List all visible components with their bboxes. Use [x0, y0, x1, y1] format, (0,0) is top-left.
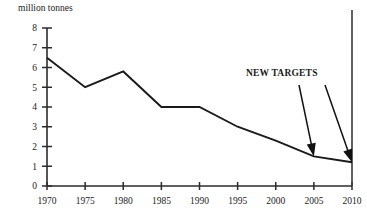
x-tick-label: 1985 — [152, 196, 171, 206]
x-tick-label: 1990 — [190, 196, 209, 206]
new-targets-label: NEW TARGETS — [246, 68, 318, 78]
annotation-arrow-shaft — [299, 85, 312, 146]
y-tick-label: 7 — [32, 43, 37, 53]
y-tick-label: 4 — [32, 102, 37, 112]
annotation-arrow-group — [299, 85, 352, 162]
x-tick-label: 2000 — [266, 196, 285, 206]
y-tick-label: 3 — [32, 122, 37, 132]
x-tick-label: 1975 — [76, 196, 95, 206]
y-tick-label: 5 — [32, 83, 37, 93]
y-tick-label: 6 — [32, 63, 37, 73]
y-tick-label: 1 — [32, 162, 37, 172]
y-tick-label: 2 — [32, 142, 37, 152]
x-tick-label: 2005 — [304, 196, 323, 206]
line-chart: million tonnes 012345678 197019751980198… — [0, 0, 367, 212]
annotation-arrow-shaft — [325, 85, 348, 152]
x-tick-label: 1970 — [38, 196, 57, 206]
y-tick-label: 0 — [32, 181, 37, 191]
x-tick-label: 1995 — [228, 196, 247, 206]
y-tick-label: 8 — [32, 23, 37, 33]
y-axis-ticks: 012345678 — [32, 23, 52, 191]
x-tick-label: 2010 — [343, 196, 362, 206]
x-tick-label: 1980 — [114, 196, 133, 206]
chart-container: million tonnes 012345678 197019751980198… — [0, 0, 367, 212]
y-axis-title: million tonnes — [18, 3, 73, 13]
